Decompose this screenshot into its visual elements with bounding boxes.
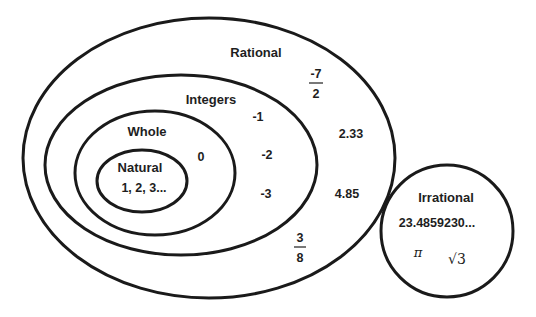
irrational-circle [381, 165, 513, 297]
integer-example-neg-1: -1 [252, 110, 263, 124]
fraction-numerator: -7 [310, 67, 321, 81]
whole-label: Whole [128, 124, 167, 139]
irrational-example-decimal: 23.4859230... [399, 216, 475, 230]
sqrt-radicand: 3 [457, 251, 466, 267]
natural-examples: 1, 2, 3... [121, 181, 166, 195]
rational-ellipse [23, 18, 395, 298]
fraction-numerator: 3 [297, 231, 304, 245]
integer-example-neg-2: -2 [261, 148, 272, 162]
pi-symbol: π [413, 245, 423, 260]
fraction-denominator: 8 [297, 251, 304, 265]
fraction-neg-7-over-2: -7 2 [309, 67, 323, 101]
irrational-set: Irrational 23.4859230... π √ 3 [381, 165, 513, 297]
irrational-label: Irrational [418, 190, 474, 205]
square-root-of-3: √ 3 [448, 251, 466, 267]
rational-set: Rational -7 2 2.33 4.85 3 8 [23, 18, 395, 298]
rational-label: Rational [230, 45, 281, 60]
whole-example-0: 0 [198, 150, 205, 164]
natural-label: Natural [118, 160, 163, 175]
number-sets-venn-diagram: Rational -7 2 2.33 4.85 3 8 Integers -1 … [0, 0, 536, 317]
integer-example-neg-3: -3 [260, 187, 271, 201]
rational-example-4-85: 4.85 [335, 187, 359, 201]
rational-example-2-33: 2.33 [339, 127, 363, 141]
sqrt-symbol: √ [448, 251, 457, 267]
fraction-3-over-8: 3 8 [294, 231, 306, 265]
natural-set: Natural 1, 2, 3... [97, 150, 187, 212]
fraction-denominator: 2 [313, 87, 320, 101]
integers-label: Integers [186, 92, 237, 107]
